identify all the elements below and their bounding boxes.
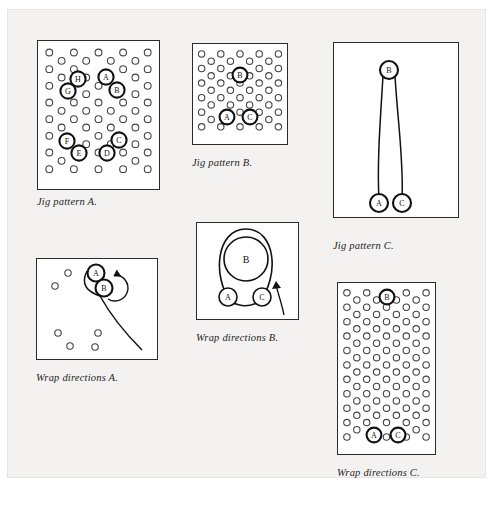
peg-hole (393, 354, 399, 360)
peg-hole (354, 326, 360, 332)
peg-hole (403, 304, 409, 310)
peg-hole (383, 434, 389, 440)
peg-hole (413, 369, 419, 375)
peg-hole (354, 340, 360, 346)
peg-hole (354, 427, 360, 433)
peg-hole (354, 398, 360, 404)
page-sheet: HAGBFCEDJig pattern A.BACJig pattern B.B… (7, 9, 486, 478)
peg-hole (344, 434, 350, 440)
peg-hole (423, 434, 429, 440)
peg-hole (403, 333, 409, 339)
peg-hole (413, 340, 419, 346)
peg-hole (344, 304, 350, 310)
peg-hole (373, 398, 379, 404)
peg-hole (393, 326, 399, 332)
peg-hole (423, 333, 429, 339)
peg-hole (423, 347, 429, 353)
peg-hole (364, 290, 370, 296)
wrap-directions-c-caption: Wrap directions C. (337, 467, 420, 478)
peg-hole (413, 326, 419, 332)
peg-hole (364, 304, 370, 310)
peg-hole (354, 297, 360, 303)
peg-hole (403, 391, 409, 397)
peg-hole (364, 347, 370, 353)
peg-hole (383, 376, 389, 382)
peg-hole (364, 333, 370, 339)
peg-hole (403, 290, 409, 296)
peg-hole (354, 311, 360, 317)
peg-hole (413, 297, 419, 303)
peg-hole (373, 354, 379, 360)
peg-hole (403, 376, 409, 382)
peg-hole (373, 340, 379, 346)
peg-hole (423, 318, 429, 324)
peg-hole (413, 398, 419, 404)
peg-hole (344, 290, 350, 296)
peg-hole (393, 383, 399, 389)
peg-hole (383, 347, 389, 353)
peg-hole (344, 419, 350, 425)
peg-hole (354, 354, 360, 360)
peg-label-c: C (395, 431, 400, 440)
peg-hole (344, 391, 350, 397)
peg-hole (423, 290, 429, 296)
peg-hole (344, 362, 350, 368)
peg-hole (413, 383, 419, 389)
peg-hole (364, 362, 370, 368)
peg-hole (354, 383, 360, 389)
peg-hole (403, 362, 409, 368)
peg-hole (403, 405, 409, 411)
peg-hole (403, 347, 409, 353)
wrap-directions-c-art: BAC (0, 0, 501, 513)
peg-hole (383, 405, 389, 411)
peg-hole (383, 318, 389, 324)
peg-hole (393, 398, 399, 404)
peg-hole (373, 383, 379, 389)
peg-hole (383, 333, 389, 339)
peg-hole (423, 362, 429, 368)
peg-hole (423, 376, 429, 382)
peg-hole (423, 419, 429, 425)
peg-hole (373, 311, 379, 317)
peg-hole (344, 333, 350, 339)
peg-hole (344, 405, 350, 411)
peg-hole (344, 318, 350, 324)
peg-hole (364, 376, 370, 382)
peg-hole (364, 419, 370, 425)
peg-hole (383, 362, 389, 368)
peg-hole (364, 318, 370, 324)
peg-hole (423, 391, 429, 397)
peg-hole (413, 354, 419, 360)
peg-hole (373, 369, 379, 375)
peg-hole (383, 391, 389, 397)
peg-hole (364, 405, 370, 411)
peg-hole (383, 419, 389, 425)
peg-hole (393, 412, 399, 418)
peg-hole (403, 318, 409, 324)
peg-hole (413, 311, 419, 317)
peg-hole (403, 419, 409, 425)
peg-hole (364, 391, 370, 397)
peg-hole (423, 304, 429, 310)
peg-hole (344, 347, 350, 353)
peg-hole (393, 369, 399, 375)
peg-label-b: B (384, 293, 389, 302)
peg-hole (413, 412, 419, 418)
peg-hole (373, 412, 379, 418)
peg-label-a: A (371, 431, 377, 440)
peg-hole (354, 412, 360, 418)
peg-hole (344, 376, 350, 382)
peg-hole (354, 369, 360, 375)
peg-hole (373, 326, 379, 332)
peg-hole (393, 311, 399, 317)
peg-hole (423, 405, 429, 411)
peg-hole (413, 427, 419, 433)
peg-hole (393, 340, 399, 346)
